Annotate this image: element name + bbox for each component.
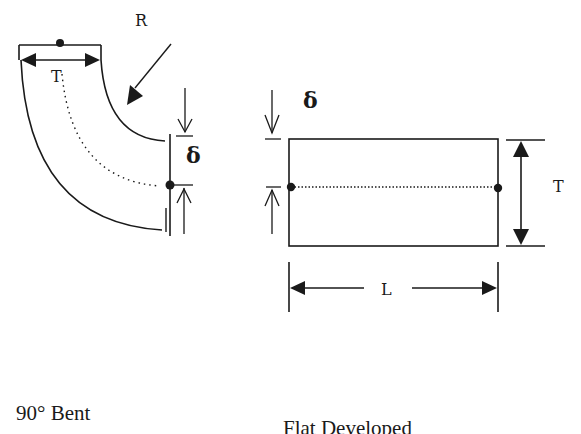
flat-delta-label: δ bbox=[303, 87, 318, 113]
bent-material-figure: T R δ bbox=[19, 11, 201, 236]
flat-caption-line1: Flat Developed bbox=[283, 413, 412, 434]
flat-length-arrowhead-left bbox=[290, 281, 305, 295]
bent-thickness-arrowhead-right bbox=[85, 53, 100, 67]
bent-neutral-point-end bbox=[166, 181, 175, 190]
bent-caption: 90° Bent Material bbox=[16, 338, 90, 434]
flat-blank-outline bbox=[289, 139, 498, 246]
flat-neutral-point-right bbox=[494, 184, 502, 192]
bent-thickness-arrowhead-left bbox=[21, 53, 36, 67]
flat-thickness-label: T bbox=[553, 177, 564, 196]
bent-delta-label: δ bbox=[186, 142, 201, 168]
bent-caption-line1: 90° Bent bbox=[16, 398, 90, 428]
flat-thickness-arrowhead-top bbox=[513, 141, 529, 157]
flat-neutral-point-left bbox=[287, 183, 295, 191]
bent-radius-leader bbox=[135, 44, 171, 88]
flat-developed-figure: δ T L bbox=[265, 87, 564, 312]
bent-neutral-axis bbox=[62, 74, 160, 186]
bent-thickness-label: T bbox=[51, 67, 62, 86]
flat-length-arrowhead-right bbox=[482, 281, 497, 295]
flat-thickness-arrowhead-bottom bbox=[513, 229, 529, 245]
bent-neutral-point-top bbox=[56, 39, 64, 47]
flat-caption: Flat Developed Length bbox=[283, 353, 412, 434]
bent-outer-arc bbox=[21, 60, 162, 230]
bent-radius-label: R bbox=[135, 11, 148, 30]
flat-length-label: L bbox=[381, 280, 392, 299]
